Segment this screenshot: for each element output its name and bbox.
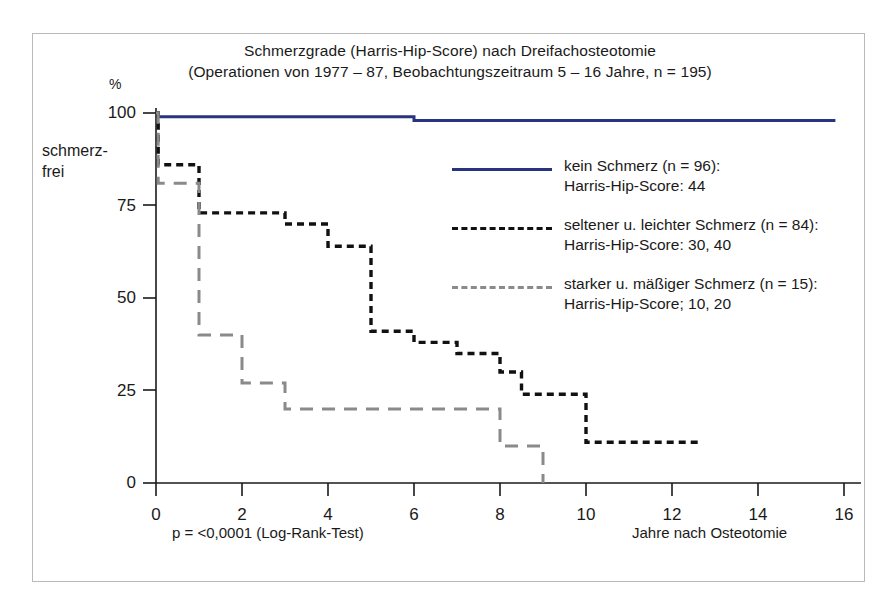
figure-canvas: Schmerzgrade (Harris-Hip-Score) nach Dre…: [0, 0, 893, 615]
curve-kein-schmerz: [156, 117, 835, 121]
survival-curves: [156, 113, 835, 483]
x-axis-ticks: [156, 483, 844, 496]
curve-leichter-schmerz: [156, 113, 698, 442]
curve-starker-schmerz: [156, 113, 543, 483]
axis-lines: [156, 108, 861, 483]
plot-area: [0, 0, 893, 615]
y-axis-ticks: [143, 113, 156, 483]
